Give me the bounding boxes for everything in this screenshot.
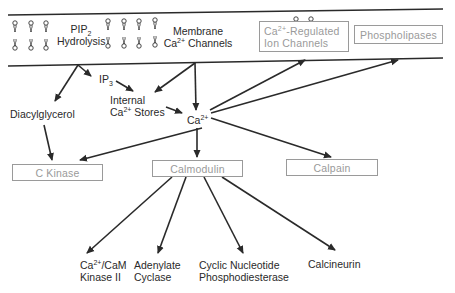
calpain-box: Calpain [286, 159, 378, 176]
arrow-stores-to-calcium [166, 107, 182, 113]
membrane-bottom-line [8, 58, 443, 66]
arrow-calmodulin-to-adenylate [158, 177, 186, 253]
arrow-channels-to-calcium [195, 63, 196, 110]
arrow-calcium-to-phospholipases [211, 60, 398, 113]
pde-label: Cyclic Nucleotide Phosphodiesterase [199, 259, 289, 283]
arrow-channels-to-stores [155, 63, 195, 92]
arrow-calmodulin-to-camk2 [87, 177, 172, 253]
ca-regulated-ion-channels-box: Ca2+-Regulated Ion Channels [259, 21, 349, 52]
calmodulin-box: Calmodulin [152, 160, 243, 177]
ip3-label: IP3 [99, 73, 113, 85]
pip2-hydrolysis-label: PIP2 Hydrolysis [57, 23, 105, 47]
arrow-pip2-to-ip3 [78, 65, 91, 76]
camk2-label: Ca2+/CaM Kinase II [80, 259, 127, 283]
internal-ca-stores-label: Internal Ca2+ Stores [110, 94, 165, 118]
arrow-ip3-to-stores [116, 81, 133, 91]
arrow-pip2-to-dag [55, 65, 78, 101]
lipid-group-left [13, 21, 48, 50]
arrow-calmodulin-to-calcineurin [222, 177, 335, 250]
adenylate-cyclase-label: Adenylate Cyclase [134, 259, 181, 283]
membrane-top-line [8, 9, 443, 15]
lipid-group-middle [106, 18, 157, 48]
membrane-ca-channels-label: Membrane Ca2+ Channels [163, 25, 233, 49]
arrow-calcium-to-ion-channels [210, 60, 305, 110]
arrow-calcium-to-calpain [211, 118, 331, 157]
arrow-calmodulin-to-pde [204, 177, 243, 253]
phospholipases-box: Phospholipases [354, 25, 443, 44]
arrow-dag-to-ckinase [44, 125, 52, 160]
c-kinase-box: C Kinase [12, 164, 103, 181]
calcineurin-label: Calcineurin [308, 258, 361, 270]
diacylglycerol-label: Diacylglycerol [10, 108, 75, 120]
arrow-calcium-to-ckinase [80, 128, 202, 160]
calcium-label: Ca2+ [187, 114, 208, 126]
